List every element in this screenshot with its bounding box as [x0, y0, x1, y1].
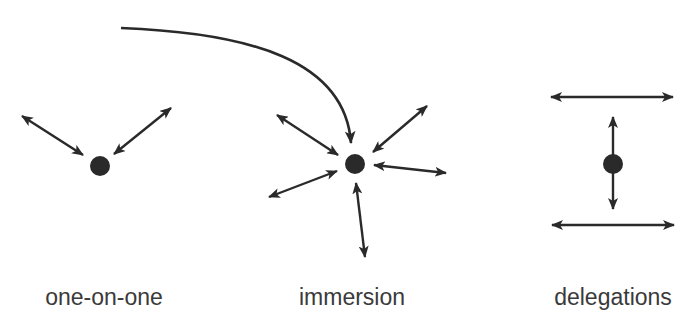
immersion-double-arrow-icon: [373, 106, 427, 152]
curved-arrow-icon: [121, 28, 351, 143]
immersion-double-arrow-icon: [356, 183, 365, 257]
immersion-double-arrow-icon: [269, 171, 337, 197]
one-on-one-double-arrow-icon: [114, 108, 171, 154]
incoming-curve-arrow: [121, 28, 351, 143]
label-one-on-one: one-on-one: [45, 282, 163, 312]
immersion-double-arrow-icon: [277, 115, 338, 155]
one-on-one-node-dot-icon: [90, 156, 110, 176]
label-delegations: delegations: [554, 282, 672, 312]
delegations-node-dot-icon: [603, 154, 623, 174]
label-immersion: immersion: [299, 282, 405, 312]
one-on-one-double-arrow-icon: [22, 116, 83, 155]
nodes-layer: [90, 154, 623, 176]
immersion-node-dot-icon: [345, 154, 365, 174]
immersion-double-arrow-icon: [374, 165, 446, 173]
